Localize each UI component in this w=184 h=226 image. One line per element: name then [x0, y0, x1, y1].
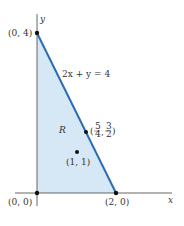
point-1-1 — [75, 150, 79, 154]
point-0-4 — [35, 31, 39, 35]
svg-text:,: , — [101, 127, 104, 137]
svg-text:2: 2 — [106, 129, 112, 139]
line-equation-label: 2x + y = 4 — [62, 69, 110, 79]
label-2-0: (2, 0) — [105, 197, 129, 207]
svg-text:): ) — [112, 126, 116, 136]
region-label: R — [58, 125, 66, 135]
point-0-0 — [35, 191, 39, 195]
label-0-4: (0, 4) — [8, 28, 32, 38]
label-5-4-3-2: ( 5 4 , 3 2 ) — [90, 121, 116, 139]
svg-text:(: ( — [90, 126, 94, 136]
y-axis-label: y — [39, 14, 46, 24]
label-0-0: (0, 0) — [8, 197, 32, 207]
point-5-4-3-2 — [84, 130, 88, 134]
region-diagram: y x (0, 4) (0, 0) (2, 0) (1, 1) R 2x + y… — [0, 0, 184, 226]
x-axis-label: x — [168, 195, 173, 205]
label-1-1: (1, 1) — [66, 157, 90, 167]
point-2-0 — [114, 191, 118, 195]
